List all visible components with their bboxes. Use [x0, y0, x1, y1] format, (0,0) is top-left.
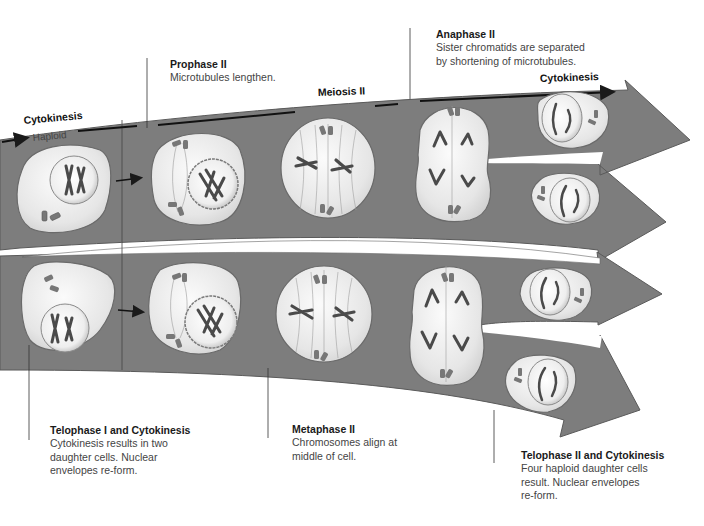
stage-description: Cytokinesis results in two [50, 437, 190, 451]
cell-prophase-ii-upper [151, 134, 244, 226]
stage-description: envelopes re-form. [50, 464, 190, 478]
cell-prophase-ii-lower [149, 263, 241, 354]
stage-description: daughter cells. Nuclear [50, 451, 190, 465]
stage-description: Sister chromatids are separated [436, 41, 585, 55]
stage-label-telophase-ii: Telophase II and Cytokinesis Four haploi… [521, 449, 664, 503]
stage-label-telophase-i: Telophase I and Cytokinesis Cytokinesis … [50, 424, 190, 478]
stage-title: Telophase II and Cytokinesis [521, 449, 664, 462]
cell-anaphase-ii-upper [416, 106, 491, 222]
stage-title: Telophase I and Cytokinesis [50, 424, 190, 437]
stage-title: Metaphase II [292, 423, 397, 436]
stage-label-anaphase-ii: Anaphase II Sister chromatids are separa… [436, 28, 585, 68]
stage-description: Microtubules lengthen. [170, 71, 276, 85]
stage-description: re-form. [521, 489, 664, 503]
stage-label-metaphase-ii: Metaphase II Chromosomes align at middle… [292, 423, 397, 463]
cell-metaphase-ii-upper [281, 118, 375, 218]
meiosis-ii-diagram: Cytokinesis Haploid Meiosis II Cytokines… [0, 0, 704, 526]
cell-telophase-ii-3 [520, 268, 592, 320]
label-cytokinesis-right: Cytokinesis [540, 70, 599, 84]
cell-telophase-ii-1 [538, 92, 609, 149]
stage-title: Anaphase II [436, 28, 585, 41]
cell-metaphase-ii-lower [276, 266, 372, 362]
label-meiosis-ii: Meiosis II [318, 84, 366, 98]
cell-anaphase-ii-lower [410, 266, 484, 385]
stage-title: Prophase II [170, 58, 276, 71]
stage-label-prophase-ii: Prophase II Microtubules lengthen. [170, 58, 276, 85]
stage-description: Four haploid daughter cells [521, 462, 664, 476]
cell-telophase-i-upper [17, 145, 111, 233]
stage-description: by shortening of microtubules. [436, 55, 585, 69]
stage-description: result. Nuclear envelopes [521, 476, 664, 490]
label-cytokinesis-left: Cytokinesis [23, 109, 83, 126]
stage-description: middle of cell. [292, 450, 397, 464]
stage-description: Chromosomes align at [292, 436, 397, 450]
